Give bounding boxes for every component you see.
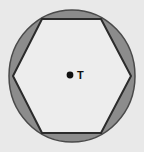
point-T-label: T (77, 69, 84, 81)
geometry-figure: T (0, 0, 144, 152)
figure-canvas (0, 0, 144, 152)
point-T-marker (67, 72, 74, 79)
